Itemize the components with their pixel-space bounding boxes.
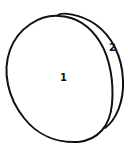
- face-label: 1: [60, 73, 67, 83]
- edge-label: 2: [109, 43, 116, 53]
